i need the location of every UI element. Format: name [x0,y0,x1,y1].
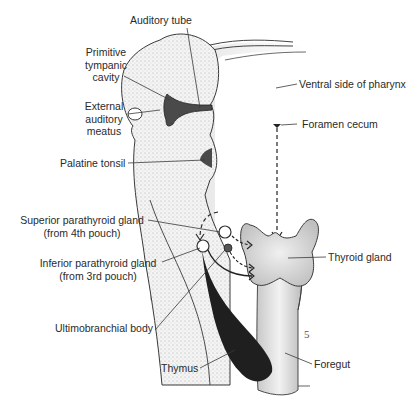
label-palatine-tonsil: Palatine tonsil [60,157,125,170]
label-foramen-cecum: Foramen cecum [302,118,378,131]
label-ultimobranchial-body: Ultimobranchial body [55,322,153,335]
label-line: Superior parathyroid gland [18,214,146,227]
foramen-cecum-path [272,124,282,240]
label-line: cavity [84,71,128,84]
label-line: (from 3rd pouch) [36,270,160,283]
thyroid-gland-shape [241,219,319,286]
label-thymus: Thymus [161,362,198,375]
label-superior-parathyroid: Superior parathyroid gland (from 4th pou… [18,214,146,239]
superior-parathyroid-shape [219,226,231,238]
label-thyroid-gland: Thyroid gland [328,251,392,264]
label-line: Primitive [84,46,128,59]
inferior-parathyroid-shape [197,240,209,252]
diagram-artwork: 5 [0,0,419,407]
label-external-auditory-meatus: External auditory meatus [82,100,126,138]
label-line: Inferior parathyroid gland [36,257,160,270]
diagram: 5 Auditory tube Primitive tympanic cavit… [0,0,419,407]
label-ventral-side-of-pharynx: Ventral side of pharynx [299,78,406,91]
label-auditory-tube: Auditory tube [130,14,192,27]
label-line: (from 4th pouch) [18,227,146,240]
handwritten-mark: 5 [304,328,310,340]
label-inferior-parathyroid: Inferior parathyroid gland (from 3rd pou… [36,257,160,282]
label-line: meatus [82,125,126,138]
label-line: tympanic [84,59,128,72]
label-primitive-tympanic-cavity: Primitive tympanic cavity [84,46,128,84]
label-line: auditory [82,113,126,126]
label-line: External [82,100,126,113]
label-foregut: Foregut [314,358,350,371]
ultimobranchial-body-shape [224,244,232,252]
